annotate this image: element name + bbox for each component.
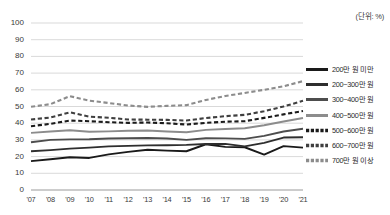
legend-item[interactable]: 200만 원 미만: [306, 62, 390, 77]
legend-label: 500~600만 원: [332, 127, 374, 134]
y-tick-label: 30: [2, 136, 24, 144]
legend-label: 200~300만 원: [332, 81, 374, 88]
y-tick-label: 70: [2, 69, 24, 77]
y-tick-label: 50: [2, 103, 24, 111]
legend-swatch-icon: [306, 95, 328, 104]
y-tick-label: 20: [2, 153, 24, 161]
series-line-6: [31, 81, 303, 107]
legend-item[interactable]: 600~700만 원: [306, 138, 390, 153]
legend-label: 400~500만 원: [332, 112, 374, 119]
legend-label: 600~700만 원: [332, 142, 374, 149]
y-tick-label: 100: [2, 19, 24, 27]
legend-label: 700만 원 이상: [332, 157, 374, 164]
legend-swatch-icon: [306, 65, 328, 74]
legend-item[interactable]: 300~400만 원: [306, 92, 390, 107]
y-tick-label: 0: [2, 186, 24, 194]
income-share-line-chart: (단위: %) 0102030405060708090100 '07'08'09…: [0, 0, 390, 215]
legend-swatch-icon: [306, 80, 328, 89]
legend-item[interactable]: 400~500만 원: [306, 108, 390, 123]
y-tick-label: 10: [2, 169, 24, 177]
legend-swatch-icon: [306, 156, 328, 165]
legend-swatch-icon: [306, 126, 328, 135]
chart-legend: 200만 원 미만200~300만 원300~400만 원400~500만 원5…: [306, 62, 390, 168]
legend-item[interactable]: 200~300만 원: [306, 77, 390, 92]
legend-label: 300~400만 원: [332, 96, 374, 103]
legend-item[interactable]: 500~600만 원: [306, 123, 390, 138]
series-line-0: [31, 144, 303, 161]
y-tick-label: 80: [2, 52, 24, 60]
legend-item[interactable]: 700만 원 이상: [306, 153, 390, 168]
y-tick-label: 40: [2, 119, 24, 127]
legend-swatch-icon: [306, 141, 328, 150]
y-tick-label: 90: [2, 36, 24, 44]
legend-label: 200만 원 미만: [332, 66, 374, 73]
legend-swatch-icon: [306, 111, 328, 120]
x-tick-label: '21: [292, 196, 314, 203]
y-tick-label: 60: [2, 86, 24, 94]
